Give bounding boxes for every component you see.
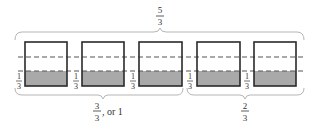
top-numerator: 5 [158,5,163,15]
top-fraction-label: 5 3 [156,5,164,27]
svg-text:1: 1 [131,72,135,81]
box-2-label: 1 3 [73,72,79,91]
svg-text:3: 3 [95,113,100,123]
svg-text:3: 3 [74,82,78,91]
top-brace [15,28,304,40]
svg-text:3: 3 [95,101,100,111]
svg-text:3: 3 [188,82,192,91]
top-denominator: 3 [158,17,163,27]
group-left-label: 3 3 , or 1 [93,101,123,123]
fraction-diagram: 5 3 1 3 1 3 1 3 1 3 1 [0,0,317,128]
bottom-left-brace [15,88,183,99]
box-4-label: 1 3 [187,72,193,91]
svg-text:1: 1 [17,72,21,81]
svg-text:, or 1: , or 1 [102,106,123,117]
svg-text:2: 2 [243,101,248,111]
shaded-regions [25,71,296,86]
box-1-label: 1 3 [16,72,22,91]
svg-text:1: 1 [74,72,78,81]
svg-text:1: 1 [188,72,192,81]
group-right-label: 2 3 [241,101,249,123]
svg-text:3: 3 [17,82,21,91]
box-5-label: 1 3 [244,72,250,91]
svg-text:3: 3 [245,82,249,91]
svg-text:3: 3 [243,113,248,123]
svg-text:1: 1 [245,72,249,81]
box-3-label: 1 3 [130,72,136,91]
svg-text:3: 3 [131,82,135,91]
